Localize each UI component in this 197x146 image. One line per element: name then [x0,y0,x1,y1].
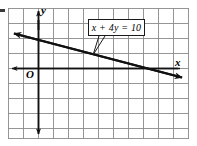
page-edge-mark [0,9,5,12]
equation-label: x + 4y = 10 [88,19,145,36]
y-axis-label: y [41,5,46,16]
graph-figure: x + 4y = 10 y x O [0,0,197,146]
origin-label: O [26,69,34,80]
x-axis-label: x [175,57,181,68]
